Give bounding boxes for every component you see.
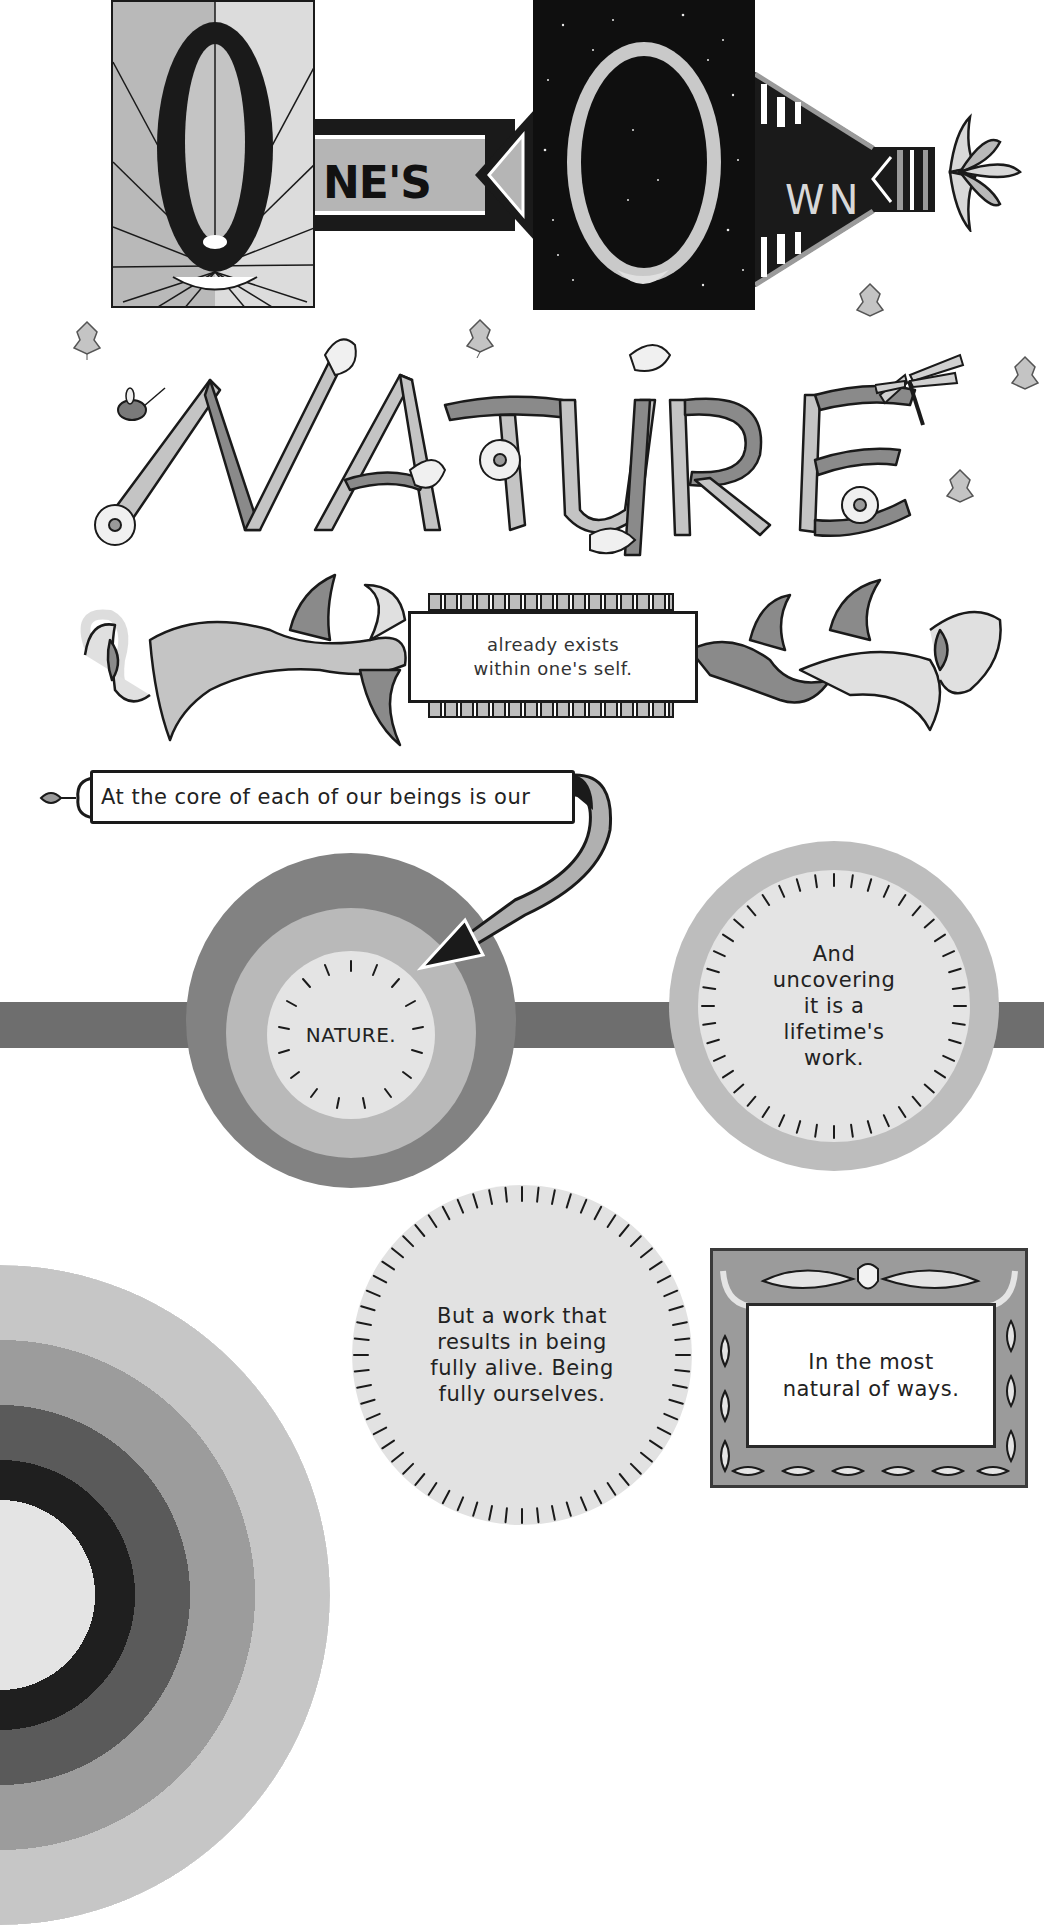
sun-rays-icon — [113, 2, 315, 308]
circle-2-text: And uncovering it is a lifetime's work. — [773, 941, 895, 1071]
nature-headline — [70, 320, 1010, 560]
maple-leaf-icon — [945, 468, 975, 508]
horizontal-band-left — [0, 1002, 200, 1048]
vine-box-top-border — [428, 593, 674, 611]
scroll-leaf-tip-icon — [36, 776, 96, 820]
frame-caption-text: In the most natural of ways. — [783, 1349, 960, 1403]
circle-1-core: NATURE. — [267, 951, 435, 1119]
title-ribbon-ones: NE'S — [315, 119, 515, 231]
starry-sky-icon — [533, 0, 755, 310]
title-ribbon-own-text: WN — [785, 177, 862, 223]
lotus-flower-icon — [945, 112, 1025, 232]
maple-leaf-icon — [855, 282, 885, 322]
vine-caption-box: already exists within one's self. — [408, 611, 698, 703]
title-letter-o-sunburst-panel — [111, 0, 315, 308]
maple-leaf-icon — [465, 318, 495, 358]
horizontal-band-middle — [500, 1002, 680, 1048]
vine-caption-line-2: within one's self. — [473, 657, 632, 681]
nature-lettering-illustration — [70, 320, 1010, 560]
acorn-icon — [858, 1264, 878, 1289]
ladybug-icon — [110, 382, 170, 427]
maple-leaf-icon — [1010, 355, 1040, 395]
circle-3-text: But a work that results in being fully a… — [430, 1303, 614, 1407]
title-ribbon-own: WN — [755, 72, 955, 287]
title-ribbon-ones-text: NE'S — [323, 157, 431, 208]
dragonfly-icon — [875, 345, 965, 430]
maple-leaf-icon — [72, 320, 102, 360]
circle-1-text: NATURE. — [306, 1023, 396, 1047]
arrow-notch-icon — [475, 109, 535, 241]
rainbow-arc-icon — [0, 1265, 330, 1925]
title-letter-o-starry-panel — [533, 0, 755, 310]
arrow-icon — [415, 770, 615, 990]
vine-caption-line-1: already exists — [487, 633, 619, 657]
circle-3: But a work that results in being fully a… — [352, 1185, 692, 1525]
frame-caption-box: In the most natural of ways. — [746, 1303, 996, 1448]
circle-2-core: And uncovering it is a lifetime's work. — [698, 870, 970, 1142]
